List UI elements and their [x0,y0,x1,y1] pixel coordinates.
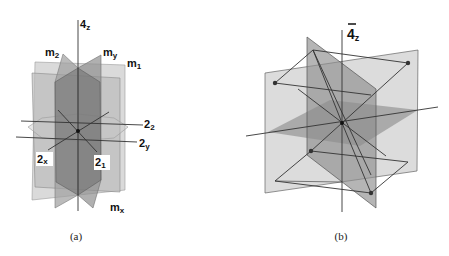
label-m1: m1 [127,57,142,71]
vertex-upper-left [273,81,277,85]
caption-b: (b) [335,230,348,243]
label-4bar-z: 4z [347,26,360,43]
label-4z: 4z [80,18,90,32]
center-point-b [340,121,344,125]
label-my: my [103,46,118,60]
panel-a: 4z m2 my m1 22 2y 2x 21 mx (a) [16,18,155,243]
center-point [76,129,80,133]
vertex-upper-right [406,61,410,65]
label-m2: m2 [45,46,60,60]
figure-canvas: 4z m2 my m1 22 2y 2x 21 mx (a) [0,0,449,256]
caption-a: (a) [70,230,83,243]
label-2y: 2y [139,137,150,151]
label-2-2: 22 [144,118,155,132]
vertex-lower-left [309,149,313,153]
vertex-lower-right [369,191,373,195]
panel-b: 4z (b) [246,24,438,243]
label-mx: mx [110,201,125,215]
